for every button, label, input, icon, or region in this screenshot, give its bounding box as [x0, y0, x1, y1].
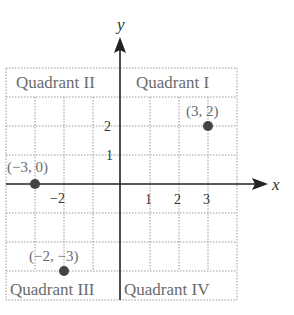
x-tick-1: 1 — [145, 192, 152, 207]
point-neg3-0 — [30, 179, 40, 189]
y-axis-label: y — [115, 15, 125, 34]
point-neg3-0-label: (−3, 0) — [7, 159, 48, 176]
point-neg2-neg3-label: (−2, −3) — [29, 248, 78, 265]
point-3-2-label: (3, 2) — [186, 103, 219, 120]
y-tick-1: 1 — [106, 148, 113, 163]
y-tick-2: 2 — [104, 119, 111, 134]
point-3-2 — [203, 121, 213, 131]
quadrant-3-label: Quadrant III — [10, 280, 95, 299]
quadrant-2-label: Quadrant II — [16, 73, 95, 92]
coordinate-plane: x y Quadrant II Quadrant I Quadrant III … — [0, 0, 294, 315]
x-tick-3: 3 — [203, 192, 210, 207]
x-axis-label: x — [271, 175, 280, 194]
x-tick-2: 2 — [174, 192, 181, 207]
point-neg2-neg3 — [59, 266, 69, 276]
quadrant-4-label: Quadrant IV — [124, 280, 210, 299]
quadrant-1-label: Quadrant I — [136, 73, 210, 92]
x-tick-neg2: −2 — [50, 191, 65, 206]
